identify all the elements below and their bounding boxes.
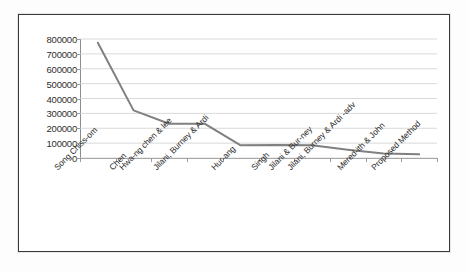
x-axis-tick: [80, 158, 81, 162]
y-axis-tick: [76, 84, 80, 85]
y-axis-tick-label: 800000: [46, 34, 77, 45]
x-axis-tick: [401, 158, 402, 162]
y-axis-tick-label: 600000: [46, 63, 77, 74]
y-axis-tick: [76, 69, 80, 70]
x-axis-tick: [330, 158, 331, 162]
y-axis-tick: [76, 113, 80, 114]
chart-frame: 0100000200000300000400000500000600000700…: [18, 14, 450, 252]
data-line-series: [80, 39, 437, 158]
y-axis-tick-label: 300000: [46, 108, 77, 119]
y-axis-tick: [76, 158, 80, 159]
chart-figure: 0100000200000300000400000500000600000700…: [0, 0, 468, 272]
x-axis-tick: [151, 158, 152, 162]
y-axis-tick-label: 700000: [46, 48, 77, 59]
y-axis-tick: [76, 39, 80, 40]
y-axis-tick: [76, 143, 80, 144]
x-axis-tick: [187, 158, 188, 162]
plot-area: [80, 39, 437, 158]
y-axis-tick-label: 500000: [46, 78, 77, 89]
y-axis-tick: [76, 99, 80, 100]
y-axis-tick-label: 400000: [46, 93, 77, 104]
y-axis-tick-label: 200000: [46, 123, 77, 134]
y-axis-tick: [76, 128, 80, 129]
y-axis-labels: 0100000200000300000400000500000600000700…: [33, 39, 77, 158]
x-axis-tick: [437, 158, 438, 162]
y-axis-tick: [76, 54, 80, 55]
x-axis-tick: [366, 158, 367, 162]
x-axis-labels: Song Chiss-omChenHwa-ng chen & leeJilani…: [80, 163, 437, 258]
